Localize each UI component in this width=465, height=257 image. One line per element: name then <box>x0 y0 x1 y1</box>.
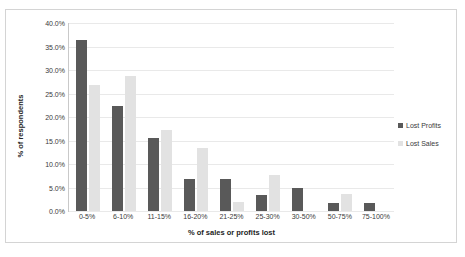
x-axis-tick-label: 6-10% <box>105 213 141 220</box>
legend-label: Lost Profits <box>406 122 441 129</box>
plot-area: 40.0%35.0%30.0%25.0%20.0%15.0%10.0%5.0%0… <box>68 23 394 212</box>
bar-group <box>70 23 106 211</box>
bar-lost-sales[interactable] <box>161 130 172 211</box>
bar-lost-profits[interactable] <box>364 203 375 211</box>
clipped-chart-title <box>106 4 336 11</box>
x-axis-tick-label: 21-25% <box>213 213 249 220</box>
bar-group <box>142 23 178 211</box>
legend-item[interactable]: Lost Profits <box>398 122 441 129</box>
legend-item[interactable]: Lost Sales <box>398 140 441 147</box>
y-axis-tick-label: 20.0% <box>45 114 65 121</box>
bar-group <box>178 23 214 211</box>
bar-group <box>214 23 250 211</box>
bar-lost-profits[interactable] <box>328 203 339 211</box>
bar-lost-profits[interactable] <box>292 188 303 212</box>
bar-lost-profits[interactable] <box>112 106 123 211</box>
bar-group <box>250 23 286 211</box>
bar-lost-sales[interactable] <box>233 202 244 211</box>
bar-group <box>106 23 142 211</box>
bar-group <box>358 23 394 211</box>
x-axis-tick-label: 30-50% <box>286 213 322 220</box>
y-axis-tick-label: 5.0% <box>49 184 65 191</box>
bar-group <box>286 23 322 211</box>
y-axis-tick-label: 25.0% <box>45 90 65 97</box>
bar-group <box>322 23 358 211</box>
y-axis-tick-label: 35.0% <box>45 43 65 50</box>
x-axis-tick-label: 50-75% <box>322 213 358 220</box>
x-axis-tick-label: 0-5% <box>69 213 105 220</box>
y-axis-title: % of respondents <box>16 95 25 158</box>
x-axis-title: % of sales or profits lost <box>69 228 394 237</box>
bar-groups <box>70 23 394 211</box>
chart-container: % of respondents 40.0%35.0%30.0%25.0%20.… <box>5 9 457 243</box>
bar-lost-sales[interactable] <box>341 194 352 211</box>
bar-lost-profits[interactable] <box>220 179 231 211</box>
bar-lost-profits[interactable] <box>184 179 195 211</box>
legend-swatch-light-icon <box>398 141 403 146</box>
bar-lost-sales[interactable] <box>269 175 280 211</box>
legend-label: Lost Sales <box>406 140 439 147</box>
legend-swatch-dark-icon <box>398 123 403 128</box>
bar-lost-profits[interactable] <box>148 138 159 211</box>
y-axis-tick-label: 0.0% <box>49 208 65 215</box>
y-axis-tick-label: 30.0% <box>45 67 65 74</box>
bar-lost-sales[interactable] <box>125 76 136 211</box>
x-axis-tick-label: 16-20% <box>177 213 213 220</box>
bar-lost-sales[interactable] <box>89 85 100 211</box>
bar-lost-profits[interactable] <box>76 40 87 211</box>
x-axis-tick-label: 75-100% <box>358 213 394 220</box>
y-axis-tick-label: 40.0% <box>45 20 65 27</box>
bar-lost-sales[interactable] <box>197 148 208 211</box>
x-axis-tick-label: 11-15% <box>141 213 177 220</box>
y-axis-tick-label: 15.0% <box>45 137 65 144</box>
x-axis-tick-label: 25-30% <box>250 213 286 220</box>
bar-lost-profits[interactable] <box>256 195 267 211</box>
chart-legend: Lost ProfitsLost Sales <box>398 122 441 147</box>
x-axis-tick-labels: 0-5%6-10%11-15%16-20%21-25%25-30%30-50%5… <box>69 213 394 220</box>
gridline <box>69 211 394 212</box>
y-axis-tick-label: 10.0% <box>45 161 65 168</box>
